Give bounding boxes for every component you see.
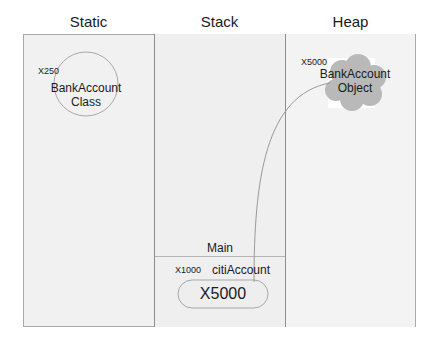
heap-object-label-1: BankAccount <box>305 67 405 81</box>
stack-frame-label: Main <box>155 241 285 255</box>
static-address: X250 <box>38 66 59 76</box>
static-class-label-2: Class <box>41 95 131 109</box>
static-class-label-1: BankAccount <box>41 81 131 95</box>
stack-variable-address: X1000 <box>175 265 201 275</box>
stack-variable-value: X5000 <box>178 285 268 303</box>
heap-address: X5000 <box>301 57 327 67</box>
heap-object-label-2: Object <box>305 81 405 95</box>
stack-variable-name: citiAccount <box>212 263 270 277</box>
